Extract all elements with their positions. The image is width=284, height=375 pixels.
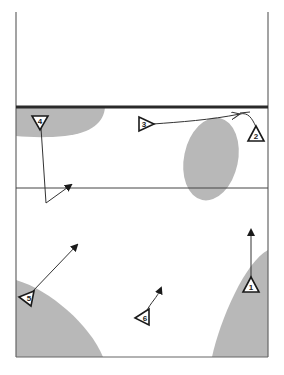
- arrow-player-2-hook: [240, 112, 250, 113]
- player-label-6: 6: [143, 314, 148, 323]
- player-marker-6[interactable]: 6: [135, 309, 149, 325]
- player-label-1: 1: [249, 283, 254, 292]
- court-diagram: 1 2 3 4 5 6: [0, 0, 284, 375]
- player-label-2: 2: [254, 132, 259, 141]
- zone-bottom-left: [16, 280, 103, 357]
- zone-top-left: [16, 107, 105, 137]
- player-label-5: 5: [27, 294, 32, 303]
- player-label-4: 4: [38, 117, 43, 126]
- player-label-3: 3: [142, 120, 147, 129]
- zone-center-ellipse: [176, 112, 246, 205]
- zone-bottom-right: [212, 250, 268, 357]
- player-marker-3[interactable]: 3: [139, 117, 154, 131]
- player-marker-2[interactable]: 2: [248, 126, 264, 141]
- arrow-player-4: [41, 128, 71, 203]
- arrow-player-2-approach: [240, 114, 256, 127]
- arrow-player-6: [146, 288, 161, 312]
- arrow-player-5: [32, 245, 77, 292]
